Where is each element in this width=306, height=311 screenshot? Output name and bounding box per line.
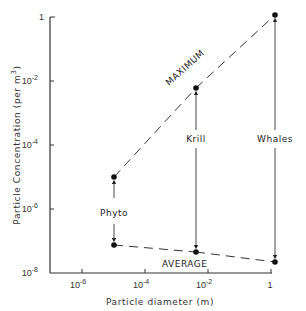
y-tick-labels: 1 10-2 10-4 10-6 10-8: [22, 12, 44, 278]
whales-max-point: [272, 12, 278, 18]
svg-text:10-2: 10-2: [22, 74, 38, 86]
svg-text:10-4: 10-4: [22, 138, 38, 150]
average-label: AVERAGE: [162, 259, 207, 269]
krill-max-point: [193, 85, 199, 91]
y-axis-title: Particle Concentration (per m3): [10, 65, 22, 224]
svg-text:10-4: 10-4: [133, 278, 149, 290]
whales-label: Whales: [257, 134, 293, 144]
x-axis-title: Particle diameter (m): [106, 297, 214, 307]
maximum-label: MAXIMUM: [164, 48, 207, 88]
krill-label: Krill: [186, 134, 206, 144]
whales-avg-point: [272, 259, 278, 265]
x-tick-labels: 10-6 10-4 10-2 1: [70, 278, 273, 290]
svg-text:10-6: 10-6: [22, 202, 38, 214]
phyto-label: Phyto: [100, 208, 128, 218]
particle-concentration-chart: 1 10-2 10-4 10-6 10-8 10-6 10-4 10-2 1 P…: [0, 0, 306, 311]
svg-text:10-8: 10-8: [22, 266, 38, 278]
maximum-line: [114, 15, 275, 177]
svg-text:10-6: 10-6: [70, 278, 86, 290]
phyto-max-point: [111, 174, 117, 180]
axes: [50, 17, 272, 273]
svg-text:1: 1: [39, 12, 44, 22]
svg-text:10-2: 10-2: [196, 278, 212, 290]
krill-avg-point: [193, 249, 199, 255]
phyto-avg-point: [111, 242, 117, 248]
svg-text:1: 1: [267, 280, 272, 290]
